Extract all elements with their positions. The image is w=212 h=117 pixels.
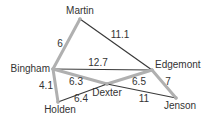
edge-bingham-holden [53, 69, 58, 102]
node-label-jenson: Jenson [164, 100, 196, 111]
node-label-dexter: Dexter [92, 87, 122, 98]
node-label-edgemont: Edgemont [155, 59, 201, 70]
edge-weight-label: 11 [139, 93, 150, 104]
edge-weight-label: 4.1 [39, 80, 53, 91]
edge-weight-label: 6 [57, 38, 63, 49]
edge-weight-label: 7 [165, 76, 171, 87]
edge-weight-label: 6.5 [132, 76, 146, 87]
node-martin [78, 17, 82, 21]
edge-weight-label: 12.7 [88, 57, 108, 68]
weighted-graph-diagram: 611.112.76.34.16.46.5117 MartinBinghamEd… [0, 0, 212, 117]
node-dexter [105, 82, 109, 86]
node-bingham [51, 67, 55, 71]
edge-bingham-edgemont [53, 69, 152, 70]
edge-weight-label: 6.4 [74, 93, 88, 104]
node-label-bingham: Bingham [11, 63, 50, 74]
node-label-holden: Holden [44, 104, 76, 115]
node-edgemont [150, 68, 154, 72]
node-label-martin: Martin [66, 5, 94, 16]
edge-weight-label: 11.1 [111, 29, 130, 40]
edge-weight-label: 6.3 [69, 76, 83, 87]
